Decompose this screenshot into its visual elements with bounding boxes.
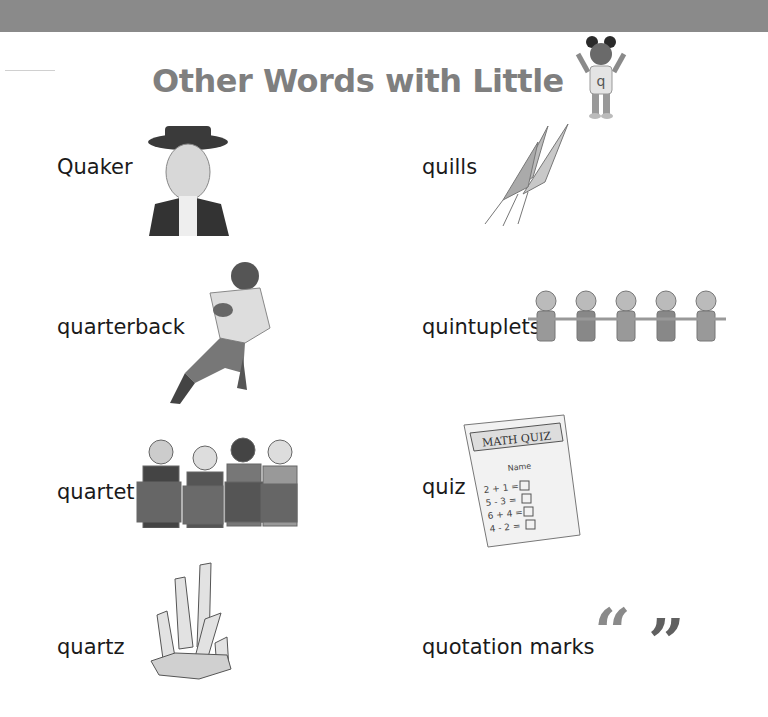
quarterback-icon [165,258,275,408]
divider [5,70,55,71]
open-quote-icon: “ [594,594,631,669]
page-title: Other Words with Little [152,62,564,100]
word-quartet: quartet [57,480,135,504]
close-quote-icon: ” [648,604,685,679]
quills-icon [473,122,573,227]
math-quiz-icon: MATH QUIZ Name 2 + 1 = 5 - 3 = 6 + 4 = 4… [462,413,582,549]
word-quintuplets: quintuplets [422,315,541,339]
quartet-icon [133,432,298,528]
svg-text:q: q [597,73,606,89]
top-banner [0,0,768,32]
word-quotation-marks: quotation marks [422,635,595,659]
word-quaker: Quaker [57,155,133,179]
quaker-man-icon [143,124,233,236]
quintuplets-icon [528,287,728,349]
mascot-girl-icon: q [570,34,632,120]
word-quills: quills [422,155,477,179]
word-quartz: quartz [57,635,124,659]
word-quiz: quiz [422,475,466,499]
quartz-crystal-icon [145,557,235,681]
